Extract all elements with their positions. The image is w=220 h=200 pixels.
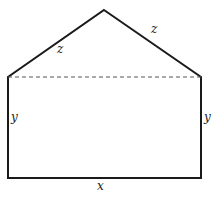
label-wall-left-y: y xyxy=(11,111,18,123)
house-shape-figure xyxy=(0,0,220,200)
pentagon-outline xyxy=(8,10,201,178)
label-roof-right-z: z xyxy=(151,23,157,35)
label-wall-right-y: y xyxy=(204,111,211,123)
label-base-x: x xyxy=(97,180,104,192)
label-roof-left-z: z xyxy=(57,43,63,55)
